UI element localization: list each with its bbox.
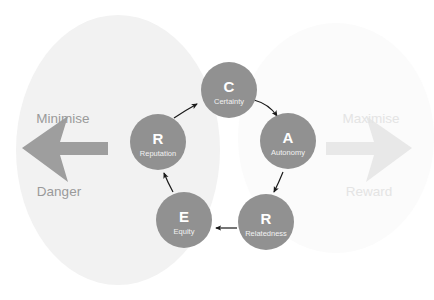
reward-label: Reward — [346, 184, 393, 199]
node-equity-word: Equity — [174, 227, 195, 236]
diagram-canvas: Minimise Danger Maximise Reward C Certai… — [0, 0, 434, 300]
node-reputation[interactable]: R Reputation — [130, 114, 186, 170]
node-reputation-word: Reputation — [140, 149, 176, 158]
node-autonomy-word: Autonomy — [271, 148, 305, 157]
node-certainty-letter: C — [224, 78, 235, 95]
node-relatedness-letter: R — [261, 210, 272, 227]
node-certainty[interactable]: C Certainty — [201, 62, 257, 118]
node-reputation-letter: R — [153, 130, 164, 147]
node-autonomy-letter: A — [283, 129, 294, 146]
minimise-label: Minimise — [36, 111, 89, 126]
maximise-label: Maximise — [342, 111, 399, 126]
danger-label: Danger — [37, 184, 82, 199]
node-equity-letter: E — [179, 208, 189, 225]
node-relatedness[interactable]: R Relatedness — [238, 194, 294, 250]
carer-model-diagram: Minimise Danger Maximise Reward C Certai… — [0, 0, 434, 300]
node-certainty-word: Certainty — [214, 97, 244, 106]
node-equity[interactable]: E Equity — [156, 192, 212, 248]
node-relatedness-word: Relatedness — [245, 229, 287, 238]
node-autonomy[interactable]: A Autonomy — [260, 113, 316, 169]
